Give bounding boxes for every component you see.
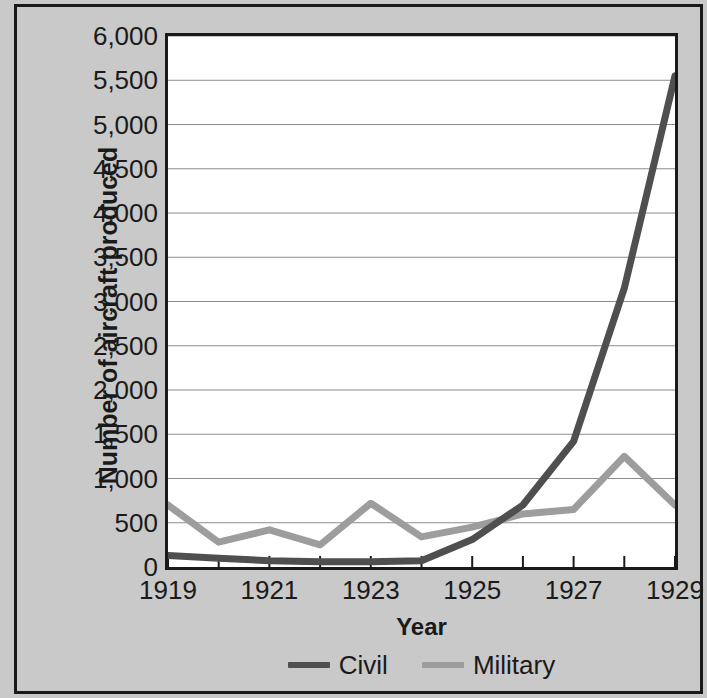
legend-swatch-military — [422, 662, 464, 668]
y-axis-tick-label: 5,000 — [28, 112, 158, 138]
y-axis-tick-label: 3,000 — [28, 289, 158, 315]
y-axis-tick-label: 4,500 — [28, 156, 158, 182]
y-axis-tick-label: 2,500 — [28, 333, 158, 359]
x-axis-tick-label: 1927 — [519, 575, 629, 606]
series-line-civil — [168, 76, 675, 562]
x-axis-tick-label: 1925 — [417, 575, 527, 606]
chart-figure: Number of aircraft produced 05001,0001,5… — [0, 0, 707, 698]
y-axis-tick-labels: 05001,0001,5002,0002,5003,0003,5004,0004… — [20, 33, 158, 570]
data-series-group — [168, 76, 675, 562]
legend-swatch-civil — [288, 662, 330, 668]
series-line-military — [168, 456, 675, 545]
legend-label-civil: Civil — [339, 650, 388, 681]
chart-legend: CivilMilitary — [165, 645, 678, 685]
y-axis-tick-label: 5,500 — [28, 67, 158, 93]
y-axis-tick-label: 500 — [28, 510, 158, 536]
y-axis-tick-label: 4,000 — [28, 200, 158, 226]
x-axis-tick-labels: 191919211923192519271929 — [165, 575, 678, 611]
legend-item-military[interactable]: Military — [422, 650, 555, 681]
x-axis-tick-label: 1929 — [620, 575, 707, 606]
plot-area — [165, 33, 678, 570]
y-axis-tick-label: 3,500 — [28, 244, 158, 270]
x-axis-tick-label: 1921 — [214, 575, 324, 606]
x-axis-tick-label: 1923 — [316, 575, 426, 606]
y-axis-tick-label: 2,000 — [28, 377, 158, 403]
y-axis-tick-label: 1,000 — [28, 466, 158, 492]
y-axis-tick-label: 1,500 — [28, 421, 158, 447]
x-axis-title: Year — [165, 613, 678, 641]
y-axis-tick-label: 6,000 — [28, 23, 158, 49]
legend-item-civil[interactable]: Civil — [288, 650, 388, 681]
plot-canvas — [168, 36, 675, 567]
x-axis-tick-label: 1919 — [113, 575, 223, 606]
gridlines — [168, 36, 675, 523]
legend-label-military: Military — [473, 650, 555, 681]
